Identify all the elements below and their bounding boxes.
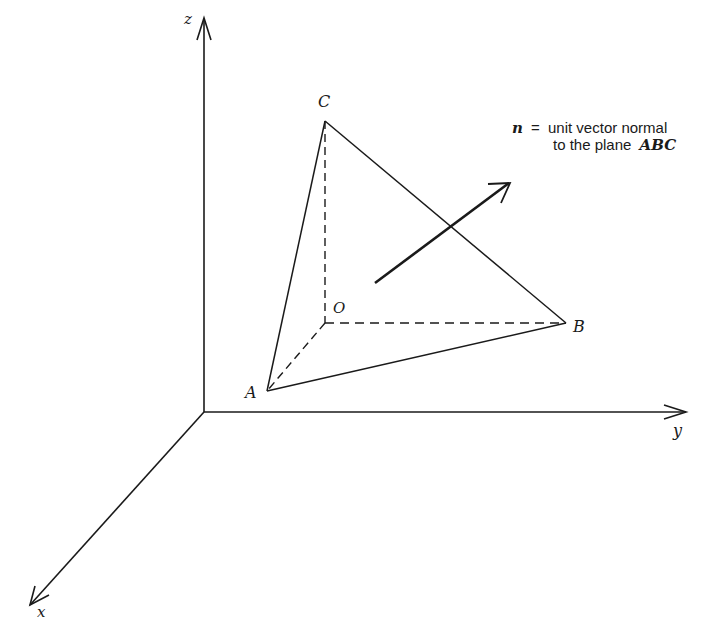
tetrahedron-normal-diagram: z y x C O B A n = unit vector normal to … bbox=[0, 0, 712, 629]
x-axis-label: x bbox=[37, 603, 46, 621]
point-label-A: A bbox=[243, 383, 257, 402]
normal-vector-annotation: n = unit vector normal to the plane ABC bbox=[512, 119, 676, 154]
edge-OA bbox=[267, 323, 325, 391]
x-axis bbox=[30, 412, 204, 605]
annotation-plane-name: ABC bbox=[638, 136, 677, 154]
normal-vector-symbol: n bbox=[512, 119, 523, 137]
annotation-equals: = bbox=[531, 119, 540, 136]
annotation-line2-prefix: to the plane bbox=[553, 136, 631, 153]
svg-text:to the plane ABC: to the plane ABC bbox=[553, 136, 676, 154]
edge-AC bbox=[267, 121, 325, 391]
edge-AB bbox=[267, 323, 566, 391]
normal-vector bbox=[375, 183, 510, 283]
point-label-O: O bbox=[333, 299, 345, 317]
point-label-B: B bbox=[572, 317, 585, 336]
point-label-C: C bbox=[318, 92, 330, 111]
z-axis-label: z bbox=[183, 10, 192, 28]
tetrahedron bbox=[267, 121, 566, 391]
edge-CB bbox=[325, 121, 566, 323]
svg-text:n = unit vector no: n = unit vector normal bbox=[512, 119, 667, 137]
normal-vector-shaft bbox=[375, 183, 509, 283]
coordinate-axes bbox=[30, 18, 686, 605]
y-axis-label: y bbox=[672, 421, 683, 440]
annotation-line1: unit vector normal bbox=[548, 119, 667, 136]
